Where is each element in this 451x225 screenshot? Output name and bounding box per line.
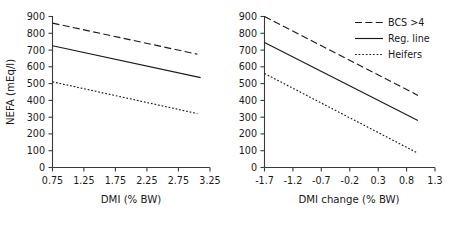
right-x-tick-label: -0.2 [340,175,359,186]
right-y-tick-label: 700 [239,45,257,56]
right-x-tick-label: 0.8 [399,175,414,186]
left-x-axis-title: DMI (% BW) [101,194,161,205]
left-x-tick-label: 3.25 [199,175,220,186]
left-y-tick-label: 300 [27,112,45,123]
left-y-tick-label: 500 [27,78,45,89]
left-x-tick-label: 1.25 [73,175,94,186]
legend: BCS >4 Reg. line Heifers [355,17,430,60]
right-x-ticks [265,168,436,172]
figure-container: 900 800 700 600 500 400 300 200 100 0 0.… [0,0,451,225]
left-y-ticks [49,17,53,168]
right-series-heifers-line [265,74,418,154]
right-y-tick-label: 800 [239,28,257,39]
right-x-tick-label: -1.2 [284,175,303,186]
left-x-tick-label: 2.75 [168,175,189,186]
legend-label-bcs: BCS >4 [388,17,424,28]
right-x-tick-label: -1.7 [255,175,274,186]
left-y-tick-label: 100 [27,145,45,156]
right-y-tick-label: 200 [239,128,257,139]
right-x-tick-label: -0.7 [312,175,331,186]
right-x-tick-label: 1.3 [427,175,442,186]
left-y-tick-label: 900 [27,11,45,22]
left-y-axis-title: NEFA (mEq/l) [5,59,16,125]
left-y-tick-label: 700 [27,45,45,56]
right-y-ticks [261,17,265,168]
right-y-tick-label: 0 [251,162,257,173]
right-x-axis-title: DMI change (% BW) [298,194,399,205]
legend-label-regline: Reg. line [388,33,430,44]
left-x-tick-label: 0.75 [42,175,63,186]
left-series-heifers-line [53,82,198,114]
right-y-tick-label: 900 [239,11,257,22]
left-y-tick-label: 200 [27,128,45,139]
legend-label-heifers: Heifers [388,49,422,60]
right-y-tick-label: 400 [239,95,257,106]
right-y-tick-label: 300 [239,112,257,123]
left-plot-svg: 900 800 700 600 500 400 300 200 100 0 0.… [0,0,225,225]
right-plot-svg: 900 800 700 600 500 400 300 200 100 0 -1… [225,0,451,225]
left-x-ticks [53,168,211,172]
left-y-tick-label: 800 [27,28,45,39]
chart-panel-left: 900 800 700 600 500 400 300 200 100 0 0.… [0,0,225,225]
right-y-tick-label: 100 [239,145,257,156]
left-x-tick-label: 2.25 [136,175,157,186]
chart-panel-right: 900 800 700 600 500 400 300 200 100 0 -1… [225,0,451,225]
left-y-tick-label: 400 [27,95,45,106]
left-y-tick-label: 0 [39,162,45,173]
right-y-tick-label: 600 [239,61,257,72]
left-x-tick-label: 1.75 [105,175,126,186]
right-x-tick-label: 0.3 [371,175,386,186]
left-series-bcs-line [53,23,198,54]
left-y-tick-label: 600 [27,61,45,72]
right-y-tick-label: 500 [239,78,257,89]
